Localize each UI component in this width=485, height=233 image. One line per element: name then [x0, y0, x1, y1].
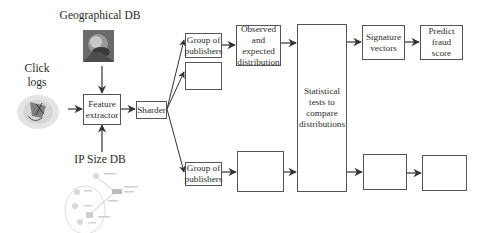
statistical-tests-box: Statistical tests to compare distributio…: [297, 24, 347, 192]
statistical-tests-label: Statistical tests to compare distributio…: [299, 86, 345, 130]
distribution-label-1: Observed and expected distribution: [237, 24, 280, 68]
arrow-sharder-to-group-3: [167, 109, 184, 172]
signature-vectors-label: Signature vectors: [366, 32, 401, 54]
arrow-sharder-to-group-2: [167, 72, 184, 109]
group-label-3: Group of publishers: [185, 163, 223, 185]
sharder-label: Sharder: [137, 105, 166, 116]
group-of-publishers-box-3: Group of publishers: [185, 162, 222, 186]
group-of-publishers-box-2: [185, 62, 222, 90]
click-logs-label: Click logs: [15, 61, 59, 89]
predict-fraud-score-box-1: Predict fraud score: [420, 25, 463, 60]
arrow-sharder-to-group-1: [167, 40, 184, 109]
group-label-1: Group of publishers: [185, 35, 223, 57]
sharder-box: Sharder: [136, 101, 167, 119]
signature-vectors-box-1: Signature vectors: [362, 25, 405, 60]
click-logs-image: [16, 94, 60, 130]
feature-extractor-box: Feature extractor: [83, 94, 121, 125]
geographical-db-label: Geographical DB: [50, 9, 150, 21]
predict-fraud-score-box-2: [422, 155, 467, 191]
distribution-box-3: [237, 151, 284, 192]
signature-vectors-box-2: [363, 154, 407, 190]
predict-fraud-score-label: Predict fraud score: [421, 26, 462, 59]
distribution-box-1: Observed and expected distribution: [236, 25, 281, 66]
feature-extractor-label: Feature extractor: [86, 99, 119, 121]
network-diagram-image: [60, 170, 145, 233]
globe-portrait-image: [83, 30, 114, 62]
group-of-publishers-box-1: Group of publishers: [185, 33, 222, 58]
ip-size-db-label: IP Size DB: [60, 153, 140, 165]
